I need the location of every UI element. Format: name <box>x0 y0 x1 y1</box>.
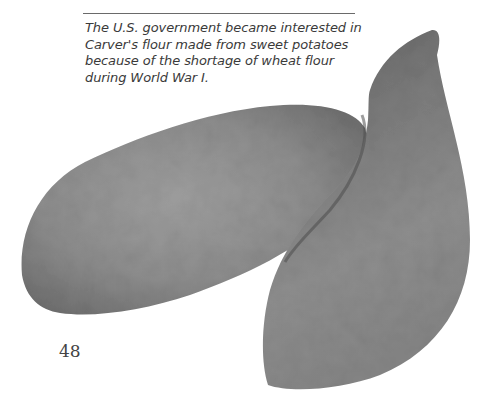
page-number: 48 <box>59 341 81 361</box>
